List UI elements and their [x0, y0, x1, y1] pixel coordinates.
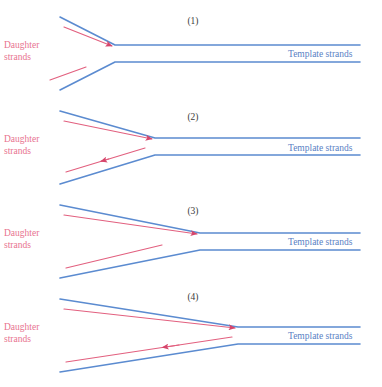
template-strands-label: Template strands	[288, 143, 353, 153]
template-strand-lower	[60, 250, 360, 278]
panel-number: (1)	[187, 16, 198, 27]
daughter-strand-leading	[64, 309, 235, 328]
template-strand-lower	[60, 62, 360, 90]
panel-number: (2)	[187, 112, 198, 123]
template-strands-label: Template strands	[288, 331, 353, 341]
daughter-strand-lagging-arrowhead	[162, 345, 179, 348]
daughter-strand-lagging	[50, 67, 86, 80]
panel-3: (3)DaughterstrandsTemplate strands	[4, 205, 360, 278]
daughter-strand-leading	[64, 121, 152, 139]
template-strand-lower	[60, 344, 360, 372]
panel-1: (1)DaughterstrandsTemplate strands	[4, 16, 360, 90]
template-strand-upper	[60, 111, 360, 138]
daughter-strands-label-line2: strands	[4, 334, 31, 344]
daughter-strands-label-line1: Daughter	[4, 40, 40, 50]
daughter-strand-leading	[64, 27, 112, 46]
daughter-strands-label-line2: strands	[4, 52, 31, 62]
panel-number: (3)	[187, 206, 198, 217]
daughter-strand-lagging	[66, 245, 162, 268]
panel-number: (4)	[187, 292, 198, 303]
daughter-strands-label-line1: Daughter	[4, 134, 40, 144]
template-strand-lower	[60, 155, 360, 184]
daughter-strand-lagging-arrowhead	[101, 159, 109, 161]
template-strands-label: Template strands	[288, 237, 353, 247]
daughter-strands-label-line1: Daughter	[4, 322, 40, 332]
daughter-strand-leading	[64, 215, 197, 234]
daughter-strands-label-line2: strands	[4, 240, 31, 250]
template-strand-upper	[60, 17, 360, 45]
daughter-strands-label-line1: Daughter	[4, 228, 40, 238]
template-strand-upper	[60, 205, 360, 233]
replication-fork-figure: (1)DaughterstrandsTemplate strands(2)Dau…	[0, 0, 382, 387]
daughter-strands-label-line2: strands	[4, 146, 31, 156]
panel-2: (2)DaughterstrandsTemplate strands	[4, 111, 360, 184]
panel-4: (4)DaughterstrandsTemplate strands	[4, 292, 360, 372]
template-strands-label: Template strands	[288, 49, 353, 59]
